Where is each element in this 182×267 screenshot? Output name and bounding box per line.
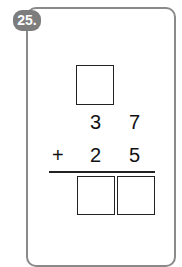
top-tens-digit: 3 (90, 112, 101, 132)
answer-tens-box[interactable] (77, 176, 115, 215)
problem-number-badge: 25. (13, 10, 41, 31)
bottom-tens-digit: 2 (90, 145, 101, 165)
problem-card (26, 7, 176, 267)
bottom-ones-digit: 5 (129, 145, 140, 165)
answer-ones-box[interactable] (117, 176, 155, 215)
plus-operator: + (52, 145, 64, 165)
sum-line (49, 171, 155, 173)
top-ones-digit: 7 (129, 112, 140, 132)
carry-input-box[interactable] (76, 65, 114, 105)
